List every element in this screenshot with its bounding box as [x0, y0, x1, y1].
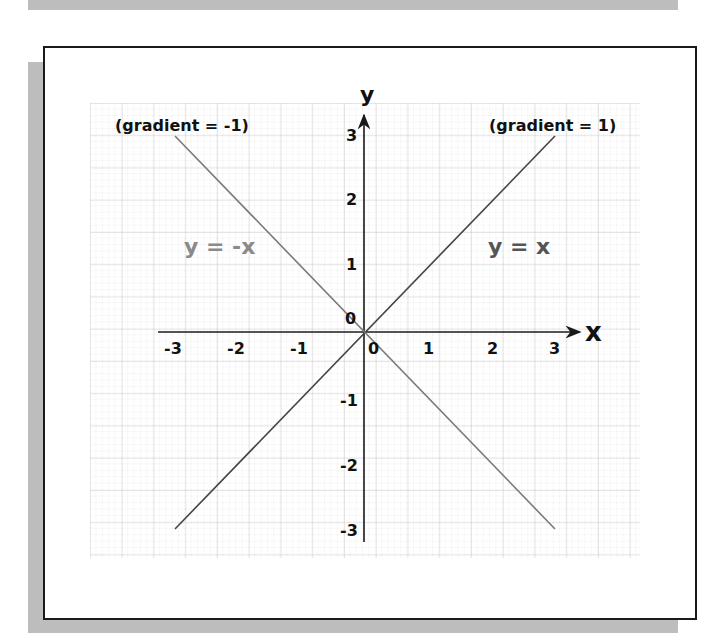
- x-tick: 1: [423, 339, 434, 358]
- x-tick: -3: [164, 339, 182, 358]
- grid: [90, 103, 640, 558]
- gradient-pos-label: (gradient = 1): [489, 116, 616, 135]
- y-tick: 1: [346, 255, 357, 274]
- equation-neg-label: y = -x: [184, 234, 255, 259]
- x-tick: 2: [487, 339, 498, 358]
- y-tick: 3: [346, 126, 357, 145]
- chart-plot: y x (gradient = -1) (gradient = 1) y = -…: [0, 0, 725, 643]
- y-tick: -1: [340, 391, 358, 410]
- y-axis-label: y: [360, 82, 374, 107]
- x-tick: -1: [290, 339, 308, 358]
- y-tick: -2: [340, 456, 358, 475]
- y-tick: 0: [345, 309, 356, 328]
- x-axis-label: x: [585, 317, 602, 347]
- equation-pos-label: y = x: [488, 234, 550, 259]
- y-tick: -3: [340, 521, 358, 540]
- y-tick: 2: [346, 190, 357, 209]
- gradient-neg-label: (gradient = -1): [115, 116, 249, 135]
- x-tick: 0: [368, 339, 379, 358]
- x-tick: -2: [227, 339, 245, 358]
- x-tick: 3: [549, 339, 560, 358]
